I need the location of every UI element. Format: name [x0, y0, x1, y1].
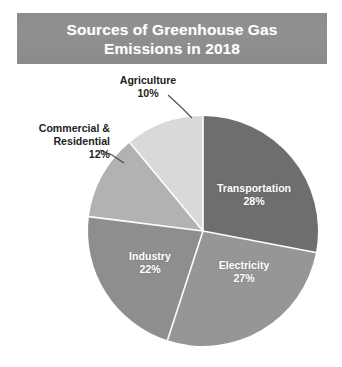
chart-plot-area: Agriculture 10% Commercial & Residential… [0, 0, 342, 367]
pie-label-agriculture: Agriculture 10% [96, 74, 200, 100]
pie-label-transportation: Transportation 28% [199, 182, 309, 209]
pie-label-electricity: Electricity 27% [196, 259, 292, 286]
pie-label-commercial-residential: Commercial & Residential 12% [2, 122, 110, 162]
pie-label-industry: Industry 22% [108, 250, 192, 277]
